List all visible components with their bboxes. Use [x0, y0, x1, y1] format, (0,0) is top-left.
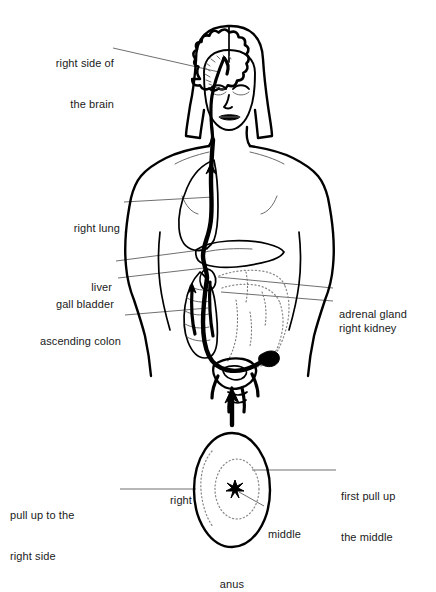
- direction-arrow-up: [225, 388, 239, 425]
- label-right-lung: right lung: [10, 195, 120, 263]
- brain-scalloped-outline: [192, 29, 249, 90]
- label-line-1: right kidney: [339, 322, 434, 336]
- left-waist-contour: [159, 232, 171, 330]
- dotted-bowel-loops: [219, 270, 289, 367]
- label-line-1: right lung: [10, 222, 120, 236]
- leader-gall-bladder: [118, 268, 204, 278]
- neck-right: [247, 127, 250, 146]
- left-clavicle: [175, 152, 209, 164]
- left-shoulder-arm: [126, 146, 209, 232]
- leader-right-kidney: [221, 292, 333, 301]
- right-side-body: [308, 232, 334, 376]
- label-pull-up-to-the-right-side: pull up to the right side: [10, 482, 120, 590]
- nose: [224, 95, 232, 109]
- right-side-dotted-arc: [201, 451, 213, 527]
- right-brain-region: [192, 29, 249, 90]
- liver-outline: [196, 241, 284, 268]
- label-line-1: right side of: [10, 57, 114, 71]
- label-line-2: right side: [10, 550, 120, 564]
- left-side-body: [125, 232, 151, 376]
- colon-inner-dark-line: [192, 290, 195, 334]
- label-line-2: the brain: [10, 98, 114, 112]
- hair-left-side: [186, 60, 204, 138]
- vaginal-canal-right: [242, 388, 244, 412]
- label-right-kidney: right kidney: [339, 295, 434, 363]
- label-ascending-colon: ascending colon: [8, 308, 121, 376]
- label-right-side-of-the-brain: right side of the brain: [10, 30, 114, 138]
- label-line-1: right: [130, 494, 192, 508]
- torso-outline: [125, 146, 334, 376]
- leader-adrenal-gland: [218, 277, 333, 288]
- caption-anus: anus: [192, 551, 272, 592]
- caption-text: anus: [192, 578, 272, 592]
- label-line-2: the middle: [341, 531, 433, 545]
- head-and-hair: [186, 26, 272, 146]
- label-line-1: middle: [268, 528, 330, 542]
- right-waist-contour: [289, 232, 301, 330]
- pelvic-organs: [212, 351, 279, 412]
- left-pelvic-branch: [212, 376, 218, 398]
- anus-detail-view: [194, 433, 270, 547]
- label-right: right: [130, 467, 192, 535]
- hair-right-side: [196, 26, 272, 138]
- anus-star: [226, 480, 244, 498]
- right-clavicle: [250, 152, 284, 164]
- uterus-outline: [213, 358, 256, 388]
- label-middle: middle: [268, 501, 330, 569]
- right-breast-hint: [261, 196, 277, 214]
- brain-tract-hook: [224, 58, 228, 74]
- label-first-pull-up-the-middle: first pull up the middle: [341, 463, 433, 571]
- ovary-right: [259, 351, 280, 367]
- right-shoulder-arm: [250, 146, 333, 232]
- leader-right-lung: [124, 197, 213, 202]
- right-pelvic-branch: [252, 374, 258, 396]
- label-line-1: first pull up: [341, 490, 433, 504]
- label-line-1: ascending colon: [8, 335, 121, 349]
- liver-inner-line: [205, 249, 252, 252]
- leader-middle: [239, 492, 264, 506]
- label-line-1: pull up to the: [10, 509, 120, 523]
- leader-right-side-of-brain: [113, 48, 219, 72]
- right-eyelash: [233, 92, 249, 95]
